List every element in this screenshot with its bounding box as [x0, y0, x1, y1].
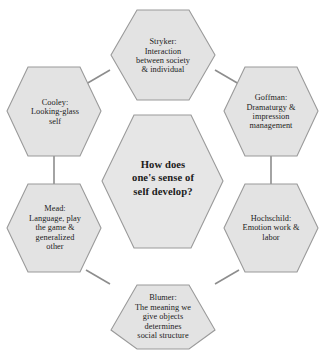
- connector-hochschild-blumer: [215, 270, 239, 284]
- hexagon-goffman[interactable]: [224, 67, 318, 156]
- hexagon-hochschild[interactable]: [224, 184, 318, 272]
- connector-cooley-stryker: [86, 70, 110, 84]
- hexagon-blumer[interactable]: [111, 285, 215, 349]
- hexagon-stryker[interactable]: [111, 10, 215, 100]
- connector-blumer-mead: [86, 270, 110, 284]
- connector-stryker-goffman: [215, 70, 239, 84]
- diagram-canvas: [0, 0, 325, 362]
- hexagon-cooley[interactable]: [7, 67, 101, 156]
- hexagon-mead[interactable]: [7, 184, 101, 272]
- hexagon-center-question[interactable]: [102, 115, 223, 248]
- hexagon-diagram: Stryker: Interaction between society & i…: [0, 0, 325, 362]
